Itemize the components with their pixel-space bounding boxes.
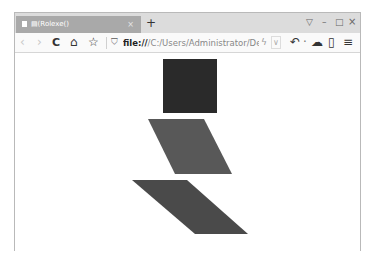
favorite-button[interactable]: ☆: [88, 35, 99, 50]
lightning-icon[interactable]: ϟ: [261, 35, 267, 50]
home-button[interactable]: ⌂: [70, 35, 78, 50]
toolbar-separator: [106, 37, 107, 49]
undo-button[interactable]: ↶: [290, 35, 300, 50]
maximize-button[interactable]: □: [335, 16, 344, 28]
address-bar[interactable]: file:///C:/Users/Administrator/Desl: [123, 36, 259, 50]
browser-window: ▤(Rolexe() × + ▽ – □ × ‹ › C ⌂ ☆ ⛉ file:…: [14, 12, 361, 251]
mobile-icon[interactable]: ▯: [328, 35, 335, 50]
page-icon: [22, 21, 27, 27]
url-scheme: file://: [123, 38, 148, 48]
tab-title: ▤(Rolexe(): [31, 20, 69, 28]
page-content: [15, 53, 360, 251]
browser-tab[interactable]: ▤(Rolexe() ×: [16, 16, 141, 33]
shapes-canvas: [15, 53, 360, 251]
back-button[interactable]: ‹: [20, 35, 25, 50]
minimize-button[interactable]: –: [322, 16, 327, 28]
shield-icon[interactable]: ⛉: [111, 35, 118, 50]
new-tab-button[interactable]: +: [146, 15, 156, 31]
tab-close-icon[interactable]: ×: [127, 16, 134, 33]
navigation-toolbar: ‹ › C ⌂ ☆ ⛉ file:///C:/Users/Administrat…: [15, 33, 360, 53]
parallelogram-shape: [132, 180, 248, 234]
parallelogram-shape: [148, 119, 232, 174]
reload-button[interactable]: C: [52, 35, 60, 50]
url-path: /C:/Users/Administrator/Desl: [148, 38, 259, 48]
cloud-icon[interactable]: ☁: [311, 35, 323, 50]
address-dropdown-icon[interactable]: ∨: [271, 36, 281, 49]
restore-icon[interactable]: ▽: [306, 16, 313, 28]
close-window-button[interactable]: ×: [348, 16, 356, 28]
forward-button[interactable]: ›: [37, 35, 42, 50]
menu-icon[interactable]: ≡: [343, 35, 353, 50]
square-shape: [163, 59, 217, 113]
title-bar: ▤(Rolexe() × + ▽ – □ ×: [15, 13, 360, 33]
undo-dropdown-icon[interactable]: ·: [303, 35, 307, 50]
